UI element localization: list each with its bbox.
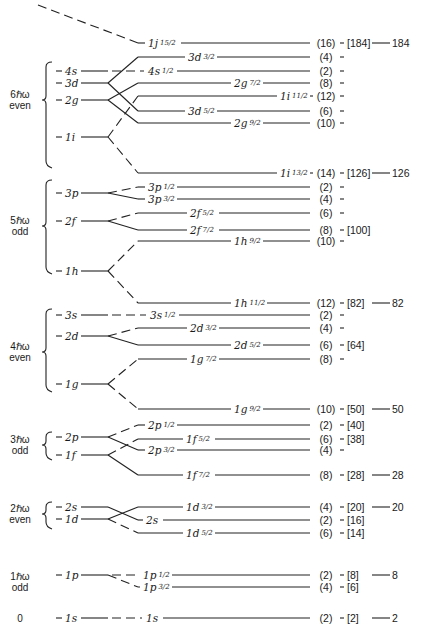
degeneracy: (12) (317, 297, 336, 309)
degeneracy: (4) (320, 322, 333, 334)
degeneracy: (6) (320, 339, 333, 351)
shell-bracket (42, 180, 52, 274)
shell-parity-label: even (9, 100, 31, 111)
connector-line (108, 575, 138, 587)
cumulative-count: [20] (347, 501, 365, 513)
split-level-label: 3p1/2 (148, 181, 175, 193)
split-level-label: 2s (145, 514, 159, 526)
split-level-label: 1g9/2 (234, 403, 261, 415)
connector-line (108, 100, 138, 123)
cumulative-count: [6] (347, 581, 359, 593)
degeneracy: (4) (320, 501, 333, 513)
split-level-label: 2f7/2 (189, 224, 214, 236)
connector-line (108, 96, 138, 137)
split-level: 1g9/2(10)[50]50 (108, 384, 404, 415)
split-level: 1f7/2(8)[28]28 (108, 455, 404, 481)
unsplit-level-label: 2d (64, 330, 79, 342)
split-level-label: 2g9/2 (233, 117, 261, 129)
connector-line (108, 187, 138, 193)
magic-number: 28 (392, 469, 404, 481)
split-level-label: 3d3/2 (188, 51, 215, 63)
magic-number: 2 (392, 612, 398, 624)
split-level: 3p1/2(2) (108, 181, 344, 194)
connector-line (108, 336, 138, 345)
degeneracy: (2) (320, 181, 333, 193)
split-level-label: 1d5/2 (186, 527, 213, 539)
cumulative-count: [184] (347, 37, 370, 49)
unsplit-level-label: 2p (64, 431, 79, 443)
degeneracy: (4) (320, 444, 333, 456)
cumulative-count: [28] (347, 469, 365, 481)
split-level-label: 1i13/2 (280, 167, 308, 179)
shell-energy-label: 6ℏω (10, 89, 30, 100)
split-level-label: 2d5/2 (233, 339, 261, 351)
degeneracy: (2) (320, 612, 333, 624)
connector-line (108, 384, 138, 409)
split-level-label: 1d3/2 (186, 501, 213, 513)
degeneracy: (4) (320, 51, 333, 63)
unsplit-level-label: 3p (65, 187, 79, 199)
magic-number: 126 (392, 167, 410, 179)
split-level: 2p3/2(4) (108, 437, 344, 456)
split-level-label: 1h9/2 (234, 235, 261, 247)
unsplit-level-label: 1s (65, 612, 78, 624)
unsplit-level-label: 1g (65, 378, 79, 390)
degeneracy: (12) (317, 90, 336, 102)
unsplit-level-label: 2s (64, 501, 78, 513)
split-level: 1i13/2(14)[126]126 (108, 137, 410, 179)
oscillator-shells: 6ℏωeven4s3d2g1i5ℏωodd3p2f1h4ℏωeven3s2d1g… (9, 62, 108, 624)
shell-parity-label: odd (12, 582, 29, 593)
unsplit-level-label: 1p (65, 569, 79, 581)
unsplit-level-label: 2g (64, 94, 79, 106)
degeneracy: (16) (317, 37, 336, 49)
connector-line (108, 271, 138, 303)
connector-line (108, 425, 138, 437)
split-level-label: 3p3/2 (148, 193, 175, 205)
connector-line (108, 213, 138, 221)
degeneracy: (8) (320, 353, 333, 365)
magic-number: 50 (392, 403, 404, 415)
split-level: 4s1/2(2) (112, 65, 344, 77)
cumulative-count: [40] (347, 419, 365, 431)
magic-number: 20 (392, 501, 404, 513)
split-level-label: 1p1/2 (143, 569, 170, 581)
cumulative-count: [82] (347, 297, 365, 309)
shell-parity-label: odd (12, 226, 29, 237)
split-level-label: 1p3/2 (143, 581, 170, 593)
degeneracy: (2) (320, 419, 333, 431)
oscillator-shell: 3ℏωodd2p1f (10, 431, 108, 461)
split-level-label: 4s1/2 (147, 65, 174, 77)
connector-line (108, 328, 138, 336)
oscillator-shell: 5ℏωodd3p2f1h (10, 180, 108, 277)
magic-number: 184 (392, 37, 410, 49)
connector-line (108, 455, 138, 475)
unsplit-level-label: 3d (65, 77, 79, 89)
shell-bracket (42, 309, 52, 392)
connector-line (108, 241, 138, 271)
split-level-label: 2f5/2 (189, 207, 214, 219)
connector-line (108, 221, 138, 230)
unsplit-level-label: 1h (65, 265, 78, 277)
split-level: 2g9/2(10) (108, 100, 344, 129)
spin-orbit-levels: 1j15/2(16)[184]1843d3/2(4)4s1/2(2)2g7/2(… (38, 5, 410, 624)
shell-model-diagram: 6ℏωeven4s3d2g1i5ℏωodd3p2f1h4ℏωeven3s2d1g… (0, 0, 426, 641)
degeneracy: (2) (320, 569, 333, 581)
split-level: 1h11/2(12)[82]82 (108, 271, 404, 309)
degeneracy: (6) (320, 527, 333, 539)
split-level: 1g7/2(8) (108, 353, 344, 385)
cumulative-count: [2] (347, 612, 359, 624)
shell-bracket (42, 62, 52, 168)
degeneracy: (8) (320, 469, 333, 481)
shell-bracket (42, 502, 52, 529)
split-level-label: 1s (146, 612, 159, 624)
connector-line (38, 5, 138, 43)
shell-parity-label: odd (12, 445, 29, 456)
split-level: 1p1/2(2)[8]8 (112, 569, 398, 581)
degeneracy: (10) (317, 117, 336, 129)
magic-number: 8 (392, 569, 398, 581)
connector-line (108, 359, 138, 384)
degeneracy: (10) (317, 235, 336, 247)
split-level-label: 2p3/2 (147, 444, 175, 456)
degeneracy: (10) (317, 403, 336, 415)
shell-energy-label: 5ℏω (10, 215, 30, 226)
